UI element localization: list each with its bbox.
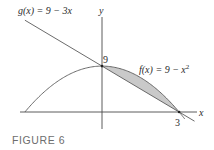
y-intercept-label: 9 xyxy=(103,54,108,65)
figure-caption: FIGURE 6 xyxy=(12,134,65,146)
f-function-label-exponent: 2 xyxy=(186,63,190,71)
intersection-point-right xyxy=(178,111,181,114)
x-axis-label: x xyxy=(198,107,204,118)
intersection-point-top xyxy=(101,65,104,68)
f-function-label: f(x) = 9 − x2 xyxy=(139,63,190,76)
g-function-label: g(x) = 9 − 3x xyxy=(18,5,73,17)
x-intercept-label: 3 xyxy=(175,117,180,128)
y-axis-label: y xyxy=(98,5,104,16)
f-function-label-text: f(x) = 9 − x xyxy=(139,64,186,76)
figure-plot: y x 9 3 g(x) = 9 − 3x f(x) = 9 − x2 xyxy=(0,0,214,150)
